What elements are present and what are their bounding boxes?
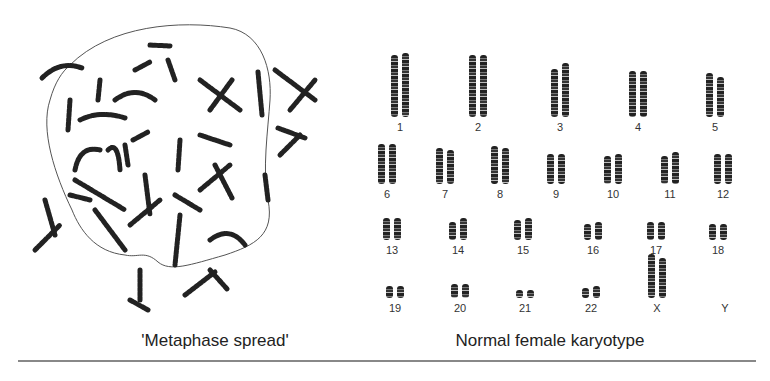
chromosome-label: Y <box>721 302 728 314</box>
chromosome <box>706 73 713 117</box>
chromosome <box>582 288 589 298</box>
chromosome-pair-12 <box>714 154 732 184</box>
chromosome <box>725 154 732 184</box>
chromosome <box>480 55 487 117</box>
chromosome-pair-8 <box>491 146 509 184</box>
chromosome <box>378 144 385 184</box>
chromosome-pair-7 <box>436 148 454 184</box>
chromosome <box>436 148 443 184</box>
chromosome-pair-x <box>648 254 666 298</box>
chromosome-pair-15 <box>514 218 532 240</box>
chromosome-label: 2 <box>475 121 481 133</box>
chromosome-label: 10 <box>607 188 619 200</box>
chromosome <box>491 146 498 184</box>
chromosome <box>661 156 668 184</box>
chromosome <box>615 154 622 184</box>
chromosome <box>460 218 467 240</box>
chromosome <box>389 144 396 184</box>
chromosome-label: 6 <box>384 188 390 200</box>
chromosome <box>402 53 409 117</box>
chromosome <box>672 152 679 184</box>
chromosome-pair-14 <box>449 218 467 240</box>
chromosome <box>720 224 727 240</box>
chromosome-label: 7 <box>442 188 448 200</box>
chromosome <box>525 218 532 240</box>
chromosome-pair-13 <box>383 218 401 240</box>
chromosome <box>516 290 523 298</box>
chromosome-label: 14 <box>452 244 464 256</box>
chromosome-label: 9 <box>553 188 559 200</box>
chromosome-label: 5 <box>712 121 718 133</box>
chromosome-label: 21 <box>519 302 531 314</box>
chromosome-pair-10 <box>604 154 622 184</box>
chromosome <box>527 290 534 298</box>
metaphase-caption: 'Metaphase spread' <box>141 331 288 351</box>
chromosome <box>709 224 716 240</box>
chromosome <box>648 254 655 298</box>
chromosome-pair-21 <box>516 290 534 298</box>
chromosome-label: 16 <box>587 244 599 256</box>
chromosome-pair-5 <box>706 73 724 117</box>
chromosome-pair-18 <box>709 224 727 240</box>
chromosome <box>447 150 454 184</box>
nucleus-outline <box>47 25 270 267</box>
chromosome <box>558 154 565 184</box>
chromosome-label: 11 <box>664 188 675 200</box>
chromosome-label: 22 <box>585 302 597 314</box>
chromosome-label: 13 <box>386 244 398 256</box>
bottom-divider <box>18 360 756 362</box>
chromosome <box>469 55 476 117</box>
chromosome <box>714 154 721 184</box>
chromosome-pair-22 <box>582 286 600 298</box>
chromosome-pair-1 <box>391 53 409 117</box>
chromosome-pair-16 <box>584 222 602 240</box>
chromosome-label: 19 <box>389 302 401 314</box>
chromosome-pair-9 <box>547 154 565 184</box>
chromosome-label: X <box>653 302 660 314</box>
chromosome <box>462 284 469 298</box>
chromosome-label: 15 <box>517 244 529 256</box>
chromosome-pair-3 <box>551 63 569 117</box>
chromosome <box>397 286 404 298</box>
chromosome <box>658 222 665 240</box>
chromosome <box>391 55 398 117</box>
chromosome-pair-4 <box>629 71 647 117</box>
chromosome <box>449 222 456 240</box>
chromosome <box>640 71 647 117</box>
chromosome-pair-6 <box>378 144 396 184</box>
chromosome-label: 20 <box>454 302 466 314</box>
chromosome-pair-19 <box>386 286 404 298</box>
chromosome <box>551 69 558 117</box>
chromosome-label: 4 <box>635 121 641 133</box>
chromosome-pair-11 <box>661 152 679 184</box>
chromosome <box>629 71 636 117</box>
chromosome <box>562 63 569 117</box>
chromosome <box>394 218 401 240</box>
chromosome <box>717 77 724 117</box>
chromosome-pair-2 <box>469 55 487 117</box>
chromosome-label: 1 <box>397 121 403 133</box>
chromosome-label: 3 <box>557 121 563 133</box>
chromosome-pair-17 <box>647 222 665 240</box>
chromosome <box>547 154 554 184</box>
chromosome <box>514 220 521 240</box>
metaphase-spread-image <box>0 0 350 330</box>
karyotype-caption: Normal female karyotype <box>456 331 645 351</box>
chromosome-label: 18 <box>712 244 724 256</box>
chromosome <box>451 284 458 298</box>
chromosome <box>604 156 611 184</box>
chromosome <box>383 218 390 240</box>
chromosome <box>386 286 393 298</box>
chromosome <box>502 148 509 184</box>
chromosome <box>593 286 600 298</box>
chromosome <box>647 222 654 240</box>
chromosome <box>595 222 602 240</box>
chromosome-label: 12 <box>717 188 729 200</box>
chromosome <box>659 258 666 298</box>
chromosome-label: 8 <box>497 188 503 200</box>
chromosome <box>584 224 591 240</box>
chromosome-pair-20 <box>451 284 469 298</box>
